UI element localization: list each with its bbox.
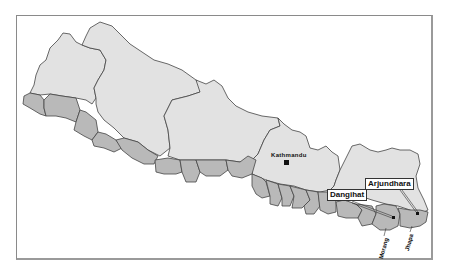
kathmandu-label: Kathmandu bbox=[271, 152, 307, 158]
terai-8 bbox=[196, 160, 228, 176]
terai-1 bbox=[23, 93, 46, 116]
arjundhara-callout: Arjundhara bbox=[365, 178, 414, 190]
terai-2 bbox=[44, 94, 80, 122]
dangihat-callout: Dangihat bbox=[327, 189, 367, 201]
jhapa-marker bbox=[416, 212, 419, 215]
terai-morang bbox=[372, 204, 400, 230]
morang-marker bbox=[392, 216, 395, 219]
terai-16 bbox=[336, 200, 362, 218]
nepal-map bbox=[0, 0, 451, 275]
terai-jhapa bbox=[398, 208, 428, 228]
kathmandu-marker bbox=[284, 160, 289, 165]
terai-6 bbox=[155, 158, 182, 174]
